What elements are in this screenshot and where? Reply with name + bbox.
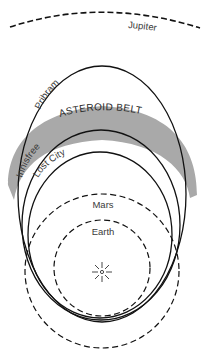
jupiter-label: Jupiter xyxy=(128,19,158,33)
jupiter-orbit xyxy=(10,12,200,28)
earth-label: Earth xyxy=(92,226,115,237)
mars-orbit xyxy=(25,194,179,348)
sun-icon xyxy=(92,262,112,282)
orbit-diagram: Jupiter Pribram ASTEROID BELT Innisfree … xyxy=(0,0,206,356)
pribram-label: Pribram xyxy=(32,77,61,111)
mars-label: Mars xyxy=(92,199,113,210)
